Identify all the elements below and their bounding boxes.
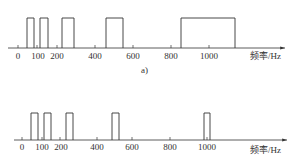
- panel-a: 0 100 200 400 600 800 1000 频率/Hz a): [8, 18, 285, 75]
- band-5: [181, 18, 235, 48]
- frequency-band-diagram: 0 100 200 400 600 800 1000 频率/Hz a) 0 10…: [0, 0, 298, 157]
- band-rects: [27, 18, 235, 48]
- tick-label-1000: 1000: [200, 51, 219, 61]
- x-ticks: [18, 45, 209, 48]
- x-ticks: [22, 137, 207, 140]
- tick-label-600: 600: [125, 142, 139, 152]
- tick-label-200: 200: [54, 142, 68, 152]
- tick-label-400: 400: [88, 51, 102, 61]
- tick-label-200: 200: [50, 51, 64, 61]
- tick-label-0: 0: [16, 51, 21, 61]
- band-3: [62, 18, 74, 48]
- band-rects: [31, 113, 210, 140]
- panel-caption: a): [141, 65, 148, 75]
- tick-label-800: 800: [163, 142, 177, 152]
- tick-label-100: 100: [31, 51, 45, 61]
- band-4: [106, 18, 123, 48]
- x-axis-label: 频率/Hz: [250, 144, 281, 155]
- band-1: [31, 113, 38, 140]
- tick-label-600: 600: [126, 51, 140, 61]
- x-axis-label: 频率/Hz: [250, 50, 281, 61]
- tick-label-0: 0: [20, 142, 25, 152]
- tick-label-400: 400: [90, 142, 104, 152]
- band-4: [112, 113, 119, 140]
- tick-label-800: 800: [164, 51, 178, 61]
- tick-label-1000: 1000: [198, 142, 217, 152]
- tick-label-100: 100: [35, 142, 49, 152]
- panel-b: 0 100 200 400 600 800 1000 频率/Hz: [14, 113, 287, 155]
- band-1: [27, 18, 34, 48]
- band-2: [44, 113, 51, 140]
- band-2: [40, 18, 48, 48]
- band-3: [66, 113, 73, 140]
- band-5: [204, 113, 210, 140]
